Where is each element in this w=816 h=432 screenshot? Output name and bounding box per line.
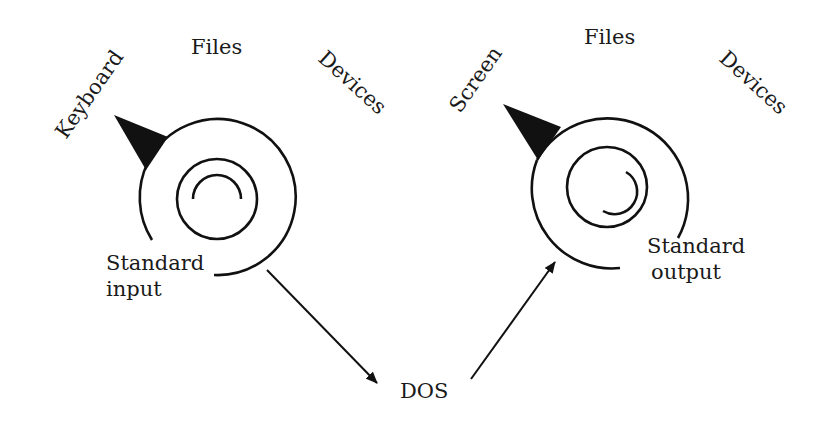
input-spiral-middle-circle (177, 159, 257, 239)
output-spiral-outer-arc (537, 118, 688, 238)
input-label-devices: Devices (314, 46, 392, 119)
output-label-devices: Devices (715, 46, 793, 119)
output-caption-line1: Standard (647, 234, 745, 258)
output-caption-line2: output (651, 260, 722, 284)
output-spiral-middle-circle (567, 147, 647, 227)
arrow-input-to-dos (267, 270, 377, 383)
diagram-svg: Keyboard Files Devices Standard input Sc… (0, 0, 816, 432)
arrow-dos-to-output (471, 262, 555, 379)
output-pointer-wedge-icon (503, 104, 561, 160)
output-spiral-inner-arc (603, 172, 637, 214)
output-spiral-tail (532, 160, 620, 268)
input-spiral-inner-arc (193, 175, 241, 199)
input-label-files: Files (191, 35, 242, 59)
input-caption-line1: Standard (106, 251, 204, 275)
input-pointer-wedge-icon (114, 115, 168, 170)
output-label-files: Files (584, 25, 635, 49)
output-label-screen: Screen (444, 42, 506, 117)
input-label-keyboard: Keyboard (50, 46, 128, 143)
input-spiral-tail (140, 162, 152, 240)
dos-label: DOS (400, 379, 448, 403)
input-caption-line2: input (106, 277, 162, 301)
diagram-canvas: Keyboard Files Devices Standard input Sc… (0, 0, 816, 432)
